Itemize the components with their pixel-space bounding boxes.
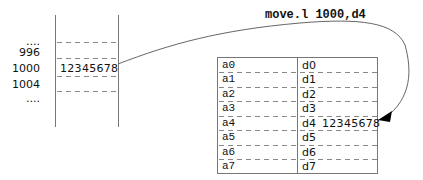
register-a7: a7	[222, 160, 235, 172]
register-d7: d7	[302, 160, 316, 173]
diagram-lines	[0, 0, 423, 180]
register-d5: d5	[302, 131, 316, 144]
register-d0: d0	[302, 59, 316, 72]
register-a0: a0	[222, 59, 235, 71]
register-a4: a4	[222, 117, 235, 129]
memory-cell-value: 12345678	[60, 62, 118, 75]
register-a3: a3	[222, 102, 235, 114]
register-d1: d1	[302, 73, 316, 86]
memory-address-1000: 1000	[0, 62, 40, 75]
instruction-label: move.l 1000,d4	[265, 8, 366, 22]
register-d3: d3	[302, 102, 316, 115]
memory-address-1004: 1004	[0, 78, 40, 91]
memory-address-ellipsis-bottom: ....	[0, 92, 40, 105]
memory-address-996: 996	[0, 46, 40, 59]
register-d4-value: 12345678	[322, 117, 380, 130]
register-a5: a5	[222, 131, 235, 143]
register-d4: d4	[302, 117, 316, 130]
register-a2: a2	[222, 88, 235, 100]
register-a1: a1	[222, 73, 235, 85]
register-d6: d6	[302, 146, 316, 159]
register-a6: a6	[222, 146, 235, 158]
register-d2: d2	[302, 88, 316, 101]
